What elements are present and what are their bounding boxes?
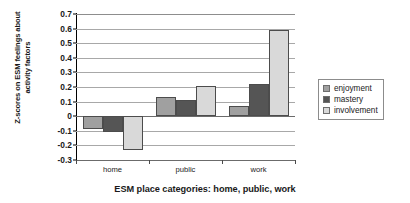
bar-home-mastery: [103, 116, 123, 132]
x-category-label-home: home: [103, 165, 122, 174]
bar-public-mastery: [176, 100, 196, 116]
x-axis-title: ESM place categories: home, public, work: [0, 184, 410, 194]
x-category-label-work: work: [250, 165, 266, 174]
x-tick-mark: [76, 160, 77, 164]
y-tick-label: 0.7: [42, 9, 72, 19]
bar-home-involvement: [123, 116, 143, 150]
legend-label-involvement: involvement: [334, 106, 378, 115]
y-tick-label: -0.2: [42, 140, 72, 150]
bar-public-involvement: [196, 86, 216, 117]
y-tick-label: -0.3: [42, 155, 72, 165]
bar-home-enjoyment: [83, 116, 103, 129]
y-tick-label: -0.1: [42, 126, 72, 136]
legend-swatch-involvement: [323, 107, 330, 114]
y-tick-label: 0.5: [42, 38, 72, 48]
y-tick-label: 0.2: [42, 82, 72, 92]
x-tick-mark: [149, 160, 150, 164]
bar-series-layer: [76, 14, 295, 160]
bar-chart: Z-scores on ESM feelings about activity …: [0, 0, 410, 203]
legend-label-enjoyment: enjoyment: [334, 84, 372, 93]
x-tick-mark: [295, 160, 296, 164]
plot-area: 0.70.60.50.40.30.20.10-0.1-0.2-0.3: [76, 14, 295, 160]
legend-swatch-mastery: [323, 96, 330, 103]
y-axis-title: Z-scores on ESM feelings about activity …: [13, 0, 32, 143]
y-tick-label: 0.3: [42, 67, 72, 77]
y-tick-label: 0.4: [42, 53, 72, 63]
y-tick-label: 0.1: [42, 97, 72, 107]
bar-work-involvement: [269, 30, 289, 116]
legend-item-enjoyment[interactable]: enjoyment: [323, 83, 378, 94]
bar-work-mastery: [249, 84, 269, 116]
bar-work-enjoyment: [229, 106, 249, 116]
x-tick-mark: [222, 160, 223, 164]
y-tick-label: 0: [42, 111, 72, 121]
x-category-label-public: public: [176, 165, 196, 174]
bar-public-enjoyment: [156, 97, 176, 116]
legend-swatch-enjoyment: [323, 85, 330, 92]
gridline: [76, 160, 295, 161]
legend-label-mastery: mastery: [334, 95, 363, 104]
legend-item-involvement[interactable]: involvement: [323, 105, 378, 116]
chart-legend: enjoyment mastery involvement: [318, 79, 384, 120]
y-tick-label: 0.6: [42, 24, 72, 34]
legend-item-mastery[interactable]: mastery: [323, 94, 378, 105]
